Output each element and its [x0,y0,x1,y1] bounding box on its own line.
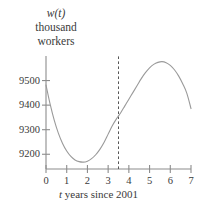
x-axis-title-rest: years since 2001 [62,188,138,200]
y-tick-label: 9500 [6,75,40,86]
x-tick-label: 2 [81,175,93,186]
x-tick-label: 7 [185,175,197,186]
x-tick-label: 1 [61,175,73,186]
chart-figure: w(t) thousand workers 9200930094009500 0… [0,0,197,208]
x-tick-label: 3 [102,175,114,186]
x-tick-label: 6 [164,175,176,186]
y-tick-label: 9300 [6,124,40,135]
x-tick-label: 4 [123,175,135,186]
y-tick-label: 9200 [6,148,40,159]
x-axis-title: t years since 2001 [0,188,197,200]
y-tick-label: 9400 [6,99,40,110]
x-tick-label: 0 [40,175,52,186]
x-tick-label: 5 [144,175,156,186]
